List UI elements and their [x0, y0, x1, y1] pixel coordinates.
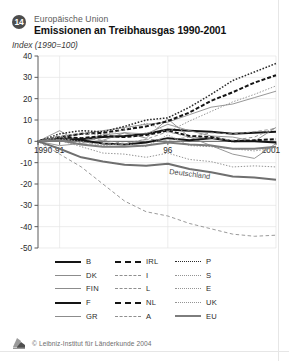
y-tick-label: 40	[23, 52, 33, 61]
legend-label: FIN	[86, 284, 99, 293]
y-tick-label: 0	[27, 137, 32, 146]
y-tick-label: 30	[23, 73, 33, 82]
page-bottom-rule	[0, 351, 289, 352]
legend-item-fin[interactable]: FIN	[55, 282, 115, 296]
legend-line-sample-p	[175, 257, 201, 266]
legend-line-sample-a	[115, 312, 141, 321]
germany-annotation-group: Deutschland	[169, 167, 211, 181]
legend-line-sample-e	[175, 284, 201, 293]
legend-item-eu[interactable]: EU	[175, 309, 235, 323]
legend-item-s[interactable]: S	[175, 269, 235, 283]
legend-line-sample-f	[55, 298, 81, 307]
legend-item-nl[interactable]: NL	[115, 296, 175, 310]
legend-label: I	[146, 271, 148, 280]
copyright-text: © Leibniz-Institut für Länderkunde 2004	[32, 340, 151, 347]
legend-label: GR	[86, 312, 98, 321]
legend-label: EU	[206, 312, 217, 321]
legend-item-b[interactable]: B	[55, 255, 115, 269]
legend-column-2: IRLILNLA	[115, 255, 175, 325]
legend-item-uk[interactable]: UK	[175, 296, 235, 310]
germany-label: Deutschland	[169, 167, 211, 181]
legend-column-1: BDKFINFGR	[55, 255, 115, 325]
legend-item-dk[interactable]: DK	[55, 269, 115, 283]
legend-label: UK	[206, 298, 217, 307]
legend-column-3: PSEUKEU	[175, 255, 235, 325]
legend-label: L	[146, 284, 150, 293]
leibniz-logo-icon	[12, 336, 27, 351]
x-tick-label: 1990	[34, 146, 53, 155]
y-tick-label: -10	[20, 159, 32, 168]
legend-label: F	[86, 298, 91, 307]
figure-supertitle: Europäische Union	[34, 14, 108, 24]
y-tick-label: 10	[23, 116, 33, 125]
legend-line-sample-gr	[55, 312, 81, 321]
figure-footer: © Leibniz-Institut für Länderkunde 2004	[12, 336, 272, 351]
legend-line-sample-i	[115, 271, 141, 280]
legend-label: E	[206, 284, 211, 293]
chart-area: 403020100-10-20-30-40-50199091962001Deut…	[0, 48, 289, 263]
y-tick-label: -50	[20, 244, 32, 253]
line-chart: 403020100-10-20-30-40-50199091962001Deut…	[0, 48, 289, 263]
data-series	[38, 63, 276, 236]
legend-label: P	[206, 257, 211, 266]
legend-line-sample-eu	[175, 312, 201, 321]
legend-line-sample-s	[175, 271, 201, 280]
legend-label: B	[86, 257, 91, 266]
series-line-p	[38, 63, 276, 141]
legend-line-sample-irl	[115, 257, 141, 266]
legend-item-a[interactable]: A	[115, 309, 175, 323]
legend-line-sample-nl	[115, 298, 141, 307]
series-line-deutschland	[38, 141, 276, 179]
legend-label: A	[146, 312, 151, 321]
chart-legend: BDKFINFGRIRLILNLAPSEUKEU	[55, 255, 235, 325]
y-tick-label: -20	[20, 180, 32, 189]
legend-item-l[interactable]: L	[115, 282, 175, 296]
legend-item-e[interactable]: E	[175, 282, 235, 296]
legend-item-irl[interactable]: IRL	[115, 255, 175, 269]
legend-item-f[interactable]: F	[55, 296, 115, 310]
legend-line-sample-b	[55, 257, 81, 266]
figure-number-badge: 14	[12, 15, 26, 29]
legend-label: DK	[86, 271, 97, 280]
legend-item-gr[interactable]: GR	[55, 309, 115, 323]
page-title: Emissionen an Treibhausgas 1990-2001	[34, 25, 226, 36]
legend-line-sample-fin	[55, 284, 81, 293]
y-tick-label: 20	[23, 95, 33, 104]
legend-line-sample-dk	[55, 271, 81, 280]
legend-label: NL	[146, 298, 156, 307]
y-tick-label: -40	[20, 223, 32, 232]
grid-lines	[38, 56, 276, 248]
figure-page: 14 Europäische Union Emissionen an Treib…	[0, 0, 289, 361]
legend-label: IRL	[146, 257, 158, 266]
legend-line-sample-uk	[175, 298, 201, 307]
legend-item-p[interactable]: P	[175, 255, 235, 269]
legend-label: S	[206, 271, 211, 280]
y-tick-label: -30	[20, 201, 32, 210]
legend-line-sample-l	[115, 284, 141, 293]
legend-item-i[interactable]: I	[115, 269, 175, 283]
